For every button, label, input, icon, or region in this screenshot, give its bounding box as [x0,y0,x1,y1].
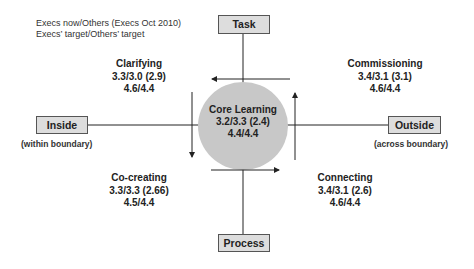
core-title: Core Learning [193,104,293,116]
core-target: 4.4/4.4 [193,128,293,140]
quadrant-now: 3.4/3.1 (2.6) [285,185,405,198]
quadrant-clarifying: Clarifying 3.3/3.0 (2.9) 4.6/4.4 [79,58,199,96]
quadrant-now: 3.4/3.1 (3.1) [325,71,445,84]
quadrant-target: 4.6/4.4 [325,83,445,96]
quadrant-now: 3.3/3.0 (2.9) [79,71,199,84]
legend-line-2: Execs’ target/Others’ target [36,29,181,40]
quadrant-now: 3.3/3.3 (2.66) [79,185,199,198]
inside-box: Inside [36,116,88,134]
quadrant-title: Commissioning [325,58,445,71]
quadrant-target: 4.6/4.4 [285,197,405,210]
core-learning: Core Learning 3.2/3.3 (2.4) 4.4/4.4 [193,104,293,140]
outside-box: Outside [388,116,441,134]
quadrant-co-creating: Co-creating 3.3/3.3 (2.66) 4.5/4.4 [79,172,199,210]
quadrant-target: 4.5/4.4 [79,197,199,210]
inside-sublabel: (within boundary) [21,139,92,149]
quadrant-title: Connecting [285,172,405,185]
legend-line-1: Execs now/Others (Execs Oct 2010) [36,18,181,29]
outside-sublabel: (across boundary) [374,139,448,149]
core-now: 3.2/3.3 (2.4) [193,116,293,128]
quadrant-connecting: Connecting 3.4/3.1 (2.6) 4.6/4.4 [285,172,405,210]
quadrant-title: Clarifying [79,58,199,71]
quadrant-commissioning: Commissioning 3.4/3.1 (3.1) 4.6/4.4 [325,58,445,96]
legend: Execs now/Others (Execs Oct 2010) Execs’… [36,18,181,40]
quadrant-target: 4.6/4.4 [79,83,199,96]
task-box: Task [218,15,270,34]
process-box: Process [218,234,270,252]
quadrant-title: Co-creating [79,172,199,185]
